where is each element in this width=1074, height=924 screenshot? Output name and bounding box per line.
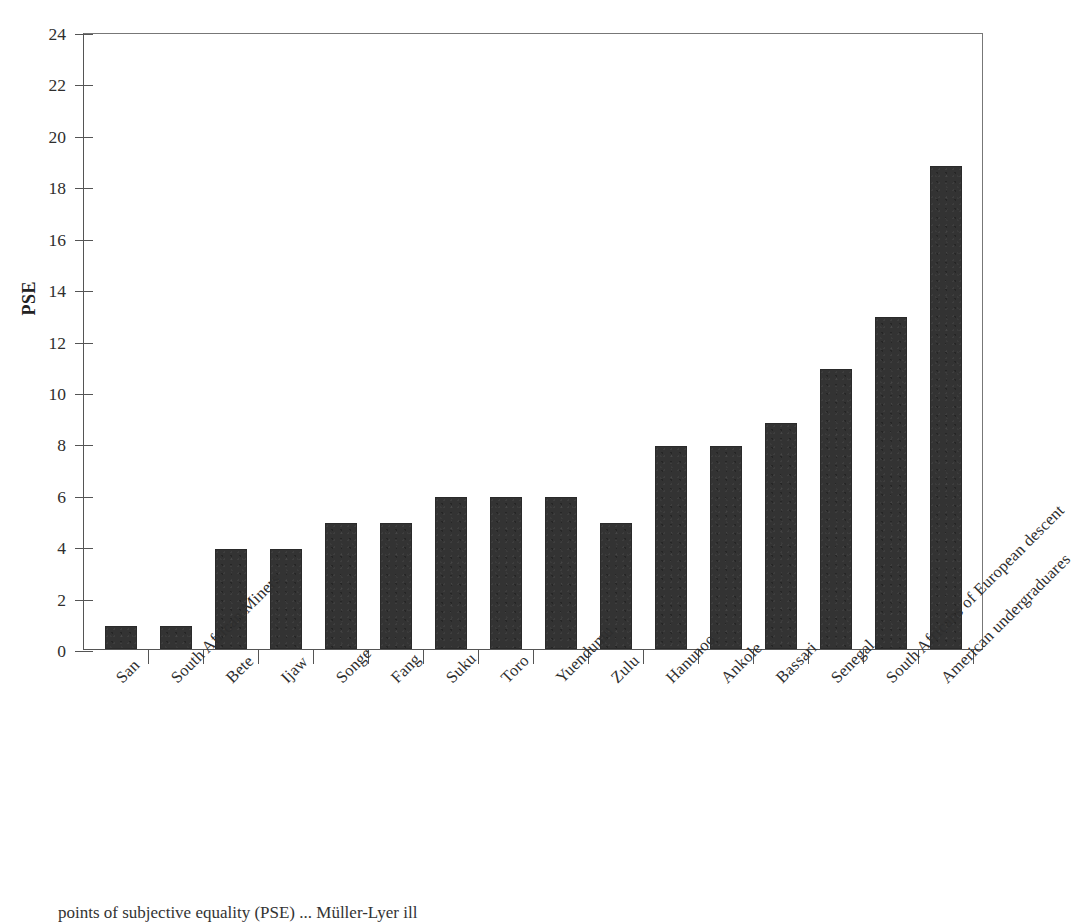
y-tick: 0 [75,651,93,652]
y-tick: 10 [75,394,93,395]
x-tick-label: San [113,657,143,687]
y-tick-label: 8 [57,438,66,456]
bar [270,549,302,649]
y-tick-label: 18 [49,181,67,199]
x-tick [258,649,259,664]
bar [875,317,907,649]
y-tick-label: 20 [49,129,67,147]
x-tick-label: Suku [443,650,479,686]
y-tick: 24 [75,34,93,35]
y-tick: 18 [75,188,93,189]
y-tick-label: 24 [49,26,67,44]
y-tick-label: 4 [57,540,66,558]
bar [655,446,687,649]
bar [325,523,357,649]
x-tick [313,649,314,664]
x-tick-label: Zulu [608,652,642,686]
y-tick: 22 [75,85,93,86]
y-tick: 8 [75,445,93,446]
y-tick-label: 6 [57,489,66,507]
bar [710,446,742,649]
bar [105,626,137,649]
x-tick-label: Toro [498,652,532,686]
y-tick-label: 10 [49,386,67,404]
y-tick: 14 [75,291,93,292]
bar [160,626,192,649]
y-tick: 2 [75,600,93,601]
y-tick: 12 [75,343,93,344]
x-tick-label: Songe [333,645,375,687]
x-tick [533,649,534,664]
bar [435,497,467,649]
y-axis-label: PSE [19,286,40,316]
x-tick [643,649,644,664]
x-tick-label: Fang [388,651,424,687]
y-tick: 16 [75,240,93,241]
bar [930,166,962,649]
y-tick: 4 [75,548,93,549]
y-tick-label: 16 [49,232,67,250]
y-tick-label: 12 [49,335,67,353]
plot-area: 024681012141618202224 [83,33,983,650]
bar [765,423,797,649]
y-tick-label: 14 [49,283,67,301]
y-tick-label: 2 [57,592,66,610]
figure-caption: points of subjective equality (PSE) ... … [58,902,958,924]
y-tick: 6 [75,497,93,498]
y-tick-label: 0 [57,643,66,661]
x-tick-label: Ijaw [278,654,311,687]
bar [820,369,852,649]
bar [490,497,522,649]
y-tick: 20 [75,137,93,138]
bar [545,497,577,649]
bar [380,523,412,649]
x-tick-label: Bete [223,653,257,687]
y-tick-label: 22 [49,78,67,96]
x-tick [148,649,149,664]
